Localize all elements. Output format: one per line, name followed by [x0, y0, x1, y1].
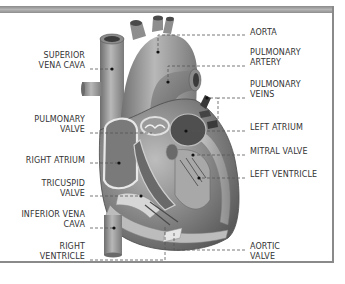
- label-line: PULMONARY: [250, 80, 301, 90]
- label-left-atrium: LEFT ATRIUM: [250, 123, 303, 133]
- label-superior-vena-cava: SUPERIOR VENA CAVA: [39, 51, 85, 71]
- label-line: MITRAL VALVE: [250, 147, 308, 157]
- dot-tricuspid-valve: [139, 194, 142, 197]
- label-line: PULMONARY: [250, 48, 301, 58]
- label-line: ARTERY: [250, 58, 301, 68]
- label-line: AORTA: [250, 28, 277, 38]
- label-line: INFERIOR VENA: [21, 210, 85, 220]
- label-line: VALVE: [34, 125, 85, 135]
- label-pulmonary-veins: PULMONARY VEINS: [250, 80, 301, 100]
- dot-inferior-vena-cava: [112, 226, 115, 229]
- label-line: VEINS: [250, 90, 301, 100]
- dot-left-ventricle: [197, 176, 200, 179]
- inferior-vena-cava-shape: [104, 215, 122, 258]
- dot-pulmonary-artery: [166, 80, 169, 83]
- label-line: LEFT ATRIUM: [250, 123, 303, 133]
- label-tricuspid-valve: TRICUSPID VALVE: [41, 179, 85, 199]
- label-right-atrium: RIGHT ATRIUM: [26, 156, 85, 166]
- label-pulmonary-valve: PULMONARY VALVE: [34, 115, 85, 135]
- label-line: PULMONARY: [34, 115, 85, 125]
- label-line: CAVA: [21, 220, 85, 230]
- label-line: LEFT VENTRICLE: [250, 170, 317, 180]
- label-line: AORTIC: [250, 242, 280, 252]
- label-line: SUPERIOR: [39, 51, 85, 61]
- label-left-ventricle: LEFT VENTRICLE: [250, 170, 317, 180]
- dot-mitral-valve: [191, 153, 194, 156]
- dot-aorta: [156, 50, 159, 53]
- label-line: VENA CAVA: [39, 61, 85, 71]
- label-line: RIGHT ATRIUM: [26, 156, 85, 166]
- right-atrium-chamber: [104, 119, 137, 189]
- dot-right-atrium: [117, 161, 120, 164]
- label-line: VENTRICLE: [40, 252, 85, 262]
- dot-superior-vena-cava: [110, 67, 113, 70]
- label-line: VALVE: [41, 189, 85, 199]
- pulmonary-valve-shape: [141, 117, 169, 135]
- label-pulmonary-artery: PULMONARY ARTERY: [250, 48, 301, 68]
- label-inferior-vena-cava: INFERIOR VENA CAVA: [21, 210, 85, 230]
- label-line: RIGHT: [40, 242, 85, 252]
- dot-left-atrium: [184, 129, 187, 132]
- label-aorta: AORTA: [250, 28, 277, 38]
- dot-pulmonary-veins: [205, 96, 208, 99]
- label-line: VALVE: [250, 252, 280, 262]
- label-aortic-valve: AORTIC VALVE: [250, 242, 280, 262]
- label-right-ventricle: RIGHT VENTRICLE: [40, 242, 85, 262]
- label-mitral-valve: MITRAL VALVE: [250, 147, 308, 157]
- label-line: TRICUSPID: [41, 179, 85, 189]
